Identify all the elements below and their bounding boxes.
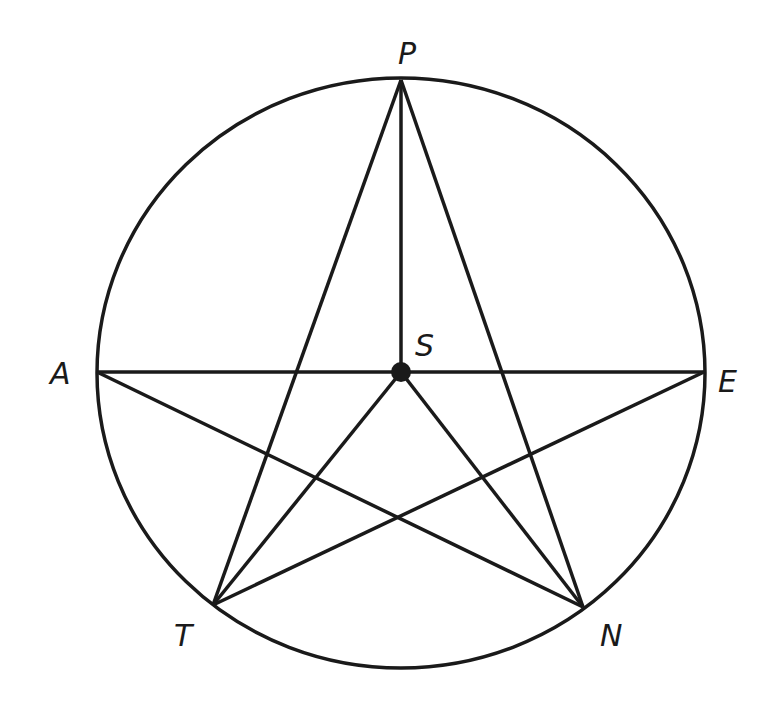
- segment-AN: [97, 372, 583, 607]
- label-T: T: [174, 618, 195, 653]
- label-P: P: [398, 36, 417, 71]
- center-point-S: [391, 362, 411, 382]
- label-S: S: [415, 328, 434, 363]
- label-A: A: [48, 356, 71, 391]
- segment-ST: [213, 372, 401, 605]
- segment-PT: [213, 80, 401, 605]
- segment-SN: [401, 372, 583, 607]
- label-N: N: [600, 618, 622, 653]
- pentagram-diagram: P S A E T N: [0, 0, 778, 705]
- segment-ET: [213, 372, 704, 605]
- label-E: E: [718, 364, 737, 399]
